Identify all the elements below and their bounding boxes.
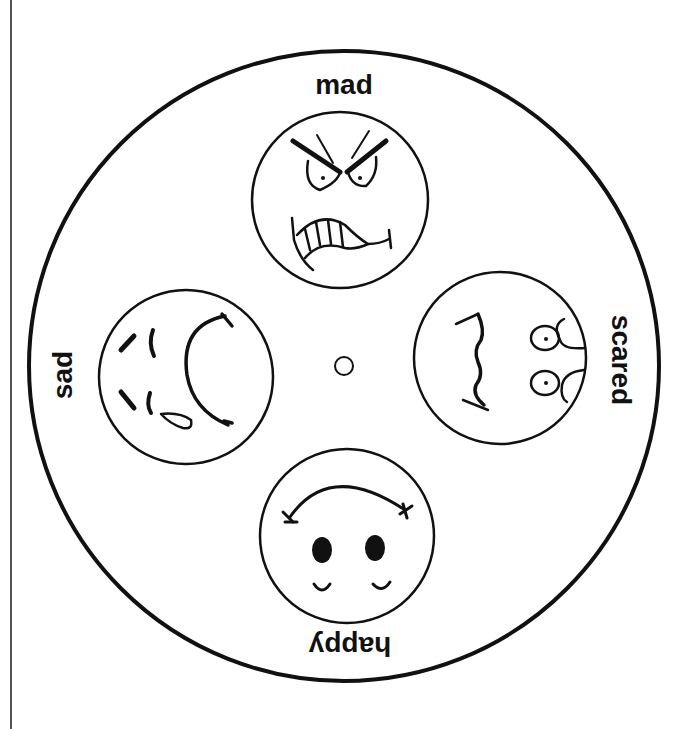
center-hole[interactable] [335,357,353,375]
happy-face-icon [260,449,434,623]
emotion-scared: scared [414,272,637,444]
emotion-wheel: mad scared [0,0,683,729]
label-mad: mad [315,69,373,100]
sad-face-icon [99,290,273,464]
label-happy: happy [308,631,391,662]
scared-face-icon [414,272,586,444]
emotion-happy: happy [260,449,434,662]
label-sad: sad [47,351,78,399]
outer-wheel-circle [29,51,659,681]
angry-face-icon [252,112,428,288]
label-scared: scared [606,315,637,405]
emotion-sad: sad [47,290,273,464]
emotion-mad: mad [252,69,428,288]
